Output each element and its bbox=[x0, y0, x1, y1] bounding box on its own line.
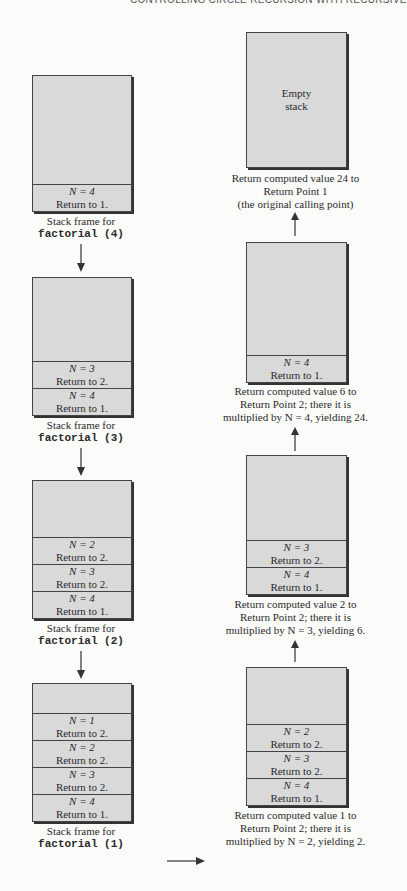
arrow-down-icon bbox=[76, 244, 86, 272]
stack-frame: N = 3 Return to 2. bbox=[33, 767, 131, 794]
stack-frame: N = 4 Return to 1. bbox=[33, 591, 131, 618]
frame-return: Return to 1. bbox=[33, 198, 131, 211]
stack-frame: N = 2 Return to 2. bbox=[33, 537, 131, 564]
frame-return: Return to 2. bbox=[33, 754, 131, 767]
frame-return: Return to 2. bbox=[247, 765, 346, 778]
stack-empty-space bbox=[33, 481, 131, 537]
frame-return: Return to 1. bbox=[33, 402, 131, 415]
frame-return: Return to 2. bbox=[247, 554, 346, 567]
frame-n: N = 4 bbox=[247, 356, 346, 369]
caption-factorial-1: Stack frame for factorial (1) bbox=[20, 825, 142, 851]
caption-text: Return computed value 6 to bbox=[214, 385, 377, 398]
frame-return: Return to 1. bbox=[247, 369, 346, 382]
frame-n: N = 1 bbox=[33, 714, 131, 727]
frame-n: N = 4 bbox=[33, 389, 131, 402]
caption-return-24: Return computed value 24 to Return Point… bbox=[218, 172, 373, 211]
frame-n: N = 3 bbox=[33, 565, 131, 578]
frame-return: Return to 1. bbox=[247, 581, 346, 594]
caption-text: Return computed value 1 to bbox=[216, 809, 375, 822]
frame-n: N = 3 bbox=[33, 362, 131, 375]
frame-n: N = 3 bbox=[247, 541, 346, 554]
stack-frame: N = 3 Return to 2. bbox=[33, 361, 131, 388]
stack-frame: N = 1 Return to 2. bbox=[33, 713, 131, 740]
arrow-down-icon bbox=[76, 651, 86, 679]
arrow-up-icon bbox=[290, 640, 300, 662]
stack-factorial-2: N = 2 Return to 2. N = 3 Return to 2. N … bbox=[32, 480, 132, 619]
caption-text: Stack frame for bbox=[20, 215, 142, 228]
arrow-up-icon bbox=[290, 212, 300, 236]
caption-text: (the original calling point) bbox=[218, 198, 373, 211]
caption-text: Return computed value 24 to bbox=[218, 172, 373, 185]
empty-stack-label: Empty stack bbox=[247, 33, 346, 167]
frame-return: Return to 1. bbox=[33, 605, 131, 618]
caption-text: Return Point 2; there it is bbox=[216, 822, 375, 835]
frame-n: N = 2 bbox=[247, 725, 346, 738]
frame-n: N = 3 bbox=[247, 752, 346, 765]
stack-frame: N = 4 Return to 1. bbox=[247, 355, 346, 382]
stack-frame: N = 2 Return to 2. bbox=[33, 740, 131, 767]
stack-frame: N = 4 Return to 1. bbox=[33, 184, 131, 211]
stack-empty-space bbox=[33, 76, 131, 184]
stack-frame: N = 2 Return to 2. bbox=[247, 724, 346, 751]
frame-n: N = 4 bbox=[33, 592, 131, 605]
stack-return-6: N = 4 Return to 1. bbox=[246, 242, 347, 383]
arrow-up-icon bbox=[290, 427, 300, 451]
stack-frame: N = 4 Return to 1. bbox=[33, 794, 131, 821]
stack-frame: N = 3 Return to 2. bbox=[247, 751, 346, 778]
page-header: CONTROLLING CIRCLE RECURSION WITH RECURS… bbox=[130, 0, 400, 5]
stack-return-2: N = 3 Return to 2. N = 4 Return to 1. bbox=[246, 455, 347, 595]
caption-text: Stack frame for bbox=[20, 419, 142, 432]
frame-n: N = 3 bbox=[33, 768, 131, 781]
frame-return: Return to 2. bbox=[247, 738, 346, 751]
caption-text: Return Point 2; there it is bbox=[216, 611, 375, 624]
caption-text: Stack frame for bbox=[20, 622, 142, 635]
frame-return: Return to 2. bbox=[33, 781, 131, 794]
frame-return: Return to 1. bbox=[33, 808, 131, 821]
frame-return: Return to 2. bbox=[33, 727, 131, 740]
caption-factorial-2: Stack frame for factorial (2) bbox=[20, 622, 142, 648]
frame-n: N = 2 bbox=[33, 741, 131, 754]
caption-text: multiplied by N = 3, yielding 6. bbox=[216, 624, 375, 637]
stack-empty-space bbox=[247, 456, 346, 540]
stack-frame: N = 4 Return to 1. bbox=[33, 388, 131, 415]
empty-label-line: Empty bbox=[282, 87, 311, 100]
frame-return: Return to 1. bbox=[247, 792, 346, 805]
frame-return: Return to 2. bbox=[33, 578, 131, 591]
caption-factorial-3: Stack frame for factorial (3) bbox=[20, 419, 142, 445]
caption-text: multiplied by N = 4, yielding 24. bbox=[214, 411, 377, 424]
caption-function: factorial (1) bbox=[20, 838, 142, 851]
frame-n: N = 4 bbox=[247, 568, 346, 581]
caption-function: factorial (2) bbox=[20, 635, 142, 648]
arrow-down-icon bbox=[76, 448, 86, 476]
frame-n: N = 4 bbox=[33, 185, 131, 198]
caption-function: factorial (3) bbox=[20, 432, 142, 445]
caption-return-1: Return computed value 1 to Return Point … bbox=[216, 809, 375, 848]
frame-n: N = 4 bbox=[33, 795, 131, 808]
stack-frame: N = 4 Return to 1. bbox=[247, 567, 346, 594]
stack-empty-space bbox=[33, 684, 131, 713]
caption-factorial-4: Stack frame for factorial (4) bbox=[20, 215, 142, 241]
stack-empty: Empty stack bbox=[246, 32, 347, 168]
arrow-right-icon bbox=[167, 856, 205, 866]
caption-return-6: Return computed value 6 to Return Point … bbox=[214, 385, 377, 424]
caption-return-2: Return computed value 2 to Return Point … bbox=[216, 598, 375, 637]
stack-factorial-4: N = 4 Return to 1. bbox=[32, 75, 132, 212]
stack-empty-space bbox=[247, 243, 346, 355]
stack-frame: N = 4 Return to 1. bbox=[247, 778, 346, 805]
caption-text: Return computed value 2 to bbox=[216, 598, 375, 611]
stack-frame: N = 3 Return to 2. bbox=[33, 564, 131, 591]
frame-return: Return to 2. bbox=[33, 551, 131, 564]
frame-n: N = 4 bbox=[247, 779, 346, 792]
frame-return: Return to 2. bbox=[33, 375, 131, 388]
stack-frame: N = 3 Return to 2. bbox=[247, 540, 346, 567]
caption-text: Stack frame for bbox=[20, 825, 142, 838]
stack-empty-space bbox=[247, 668, 346, 724]
empty-label-line: stack bbox=[282, 100, 311, 113]
caption-text: Return Point 1 bbox=[218, 185, 373, 198]
caption-text: Return Point 2; there it is bbox=[214, 398, 377, 411]
stack-factorial-3: N = 3 Return to 2. N = 4 Return to 1. bbox=[32, 277, 132, 416]
stack-factorial-1: N = 1 Return to 2. N = 2 Return to 2. N … bbox=[32, 683, 132, 822]
stack-empty-space bbox=[33, 278, 131, 361]
caption-function: factorial (4) bbox=[20, 228, 142, 241]
stack-return-1: N = 2 Return to 2. N = 3 Return to 2. N … bbox=[246, 667, 347, 806]
